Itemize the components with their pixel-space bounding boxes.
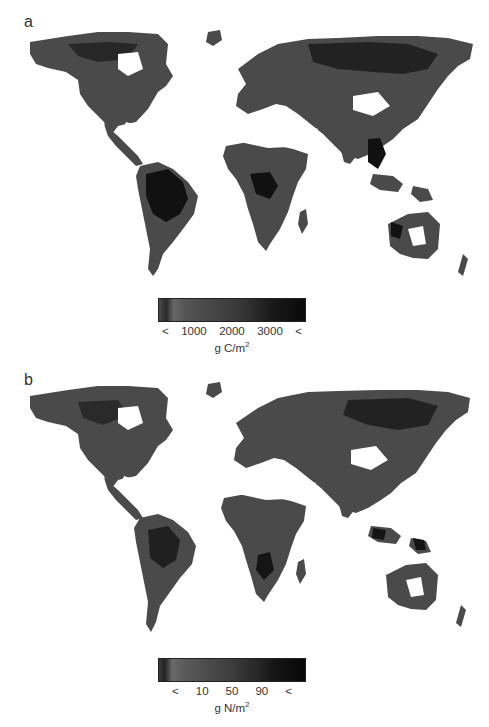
legend-nitrogen: < 10 50 90 < g N/m2 xyxy=(158,658,306,715)
colorbar-ticks-carbon: < 1000 2000 3000 < xyxy=(158,324,306,338)
tick-label: < xyxy=(162,324,169,338)
tick-label: 2000 xyxy=(219,324,245,338)
tick-label: < xyxy=(285,684,292,698)
colorbar-ticks-nitrogen: < 10 50 90 < xyxy=(158,684,306,698)
colorbar-nitrogen xyxy=(158,658,306,682)
unit-label-carbon: g C/m2 xyxy=(158,338,306,355)
world-map-carbon xyxy=(8,14,486,290)
tick-label: 3000 xyxy=(257,324,283,338)
panel-a: a xyxy=(0,0,489,360)
tick-label: 90 xyxy=(255,684,268,698)
unit-label-nitrogen: g N/m2 xyxy=(158,698,306,715)
tick-label: 10 xyxy=(196,684,209,698)
colorbar-carbon xyxy=(158,298,306,322)
tick-label: < xyxy=(295,324,302,338)
world-map-nitrogen xyxy=(8,370,486,642)
tick-label: 50 xyxy=(226,684,239,698)
panel-b: b xyxy=(0,362,489,727)
tick-label: 1000 xyxy=(181,324,207,338)
legend-carbon: < 1000 2000 3000 < g C/m2 xyxy=(158,298,306,355)
tick-label: < xyxy=(172,684,179,698)
